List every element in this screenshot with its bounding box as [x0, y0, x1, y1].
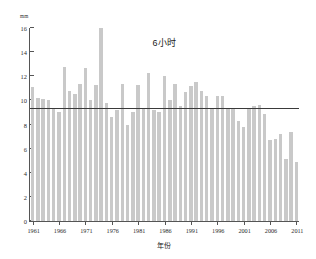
bar: [99, 28, 102, 221]
bar: [221, 96, 224, 221]
bar: [216, 96, 219, 221]
x-axis-tick-label: 1976: [107, 227, 119, 234]
bar: [78, 84, 81, 222]
x-axis-tick: 1971: [85, 221, 86, 225]
bar: [200, 91, 203, 221]
x-axis-tick: 2011: [296, 221, 297, 225]
bar: [205, 96, 208, 221]
x-axis-tick: 2001: [244, 221, 245, 225]
y-axis-tick: 14: [30, 51, 34, 52]
bar: [258, 105, 261, 221]
bar: [73, 94, 76, 221]
bar: [105, 103, 108, 221]
x-axis-tick: 1966: [59, 221, 60, 225]
bar: [152, 110, 155, 221]
bar: [52, 109, 55, 221]
bar: [68, 91, 71, 221]
y-axis-unit-label: mm: [20, 13, 28, 19]
y-axis-tick-label: 14: [21, 49, 27, 56]
x-axis-tick-label: 1996: [212, 227, 224, 234]
mean-reference-line: [30, 108, 299, 109]
x-axis-tick: 2006: [270, 221, 271, 225]
bar: [247, 108, 250, 221]
bar: [263, 114, 266, 221]
bar: [57, 112, 60, 221]
bar: [237, 121, 240, 221]
bar: [47, 100, 50, 221]
bar: [226, 109, 229, 221]
y-axis-tick-label: 4: [24, 169, 27, 176]
plot-area: 6小时 0246810121416 1961196619711976198119…: [29, 28, 299, 222]
x-axis-tick-label: 1986: [159, 227, 171, 234]
bar: [179, 106, 182, 221]
bar: [121, 84, 124, 222]
y-axis-tick: 16: [30, 27, 34, 28]
bar: [142, 109, 145, 221]
x-axis-tick: 1976: [112, 221, 113, 225]
y-axis-tick: 12: [30, 75, 34, 76]
bar: [63, 67, 66, 221]
x-axis-tick-label: 1966: [54, 227, 66, 234]
bar: [41, 99, 44, 221]
bar: [89, 100, 92, 221]
bar: [115, 110, 118, 221]
bar-chart-figure: mm 6小时 0246810121416 1961196619711976198…: [0, 0, 316, 259]
x-axis-tick: 1996: [217, 221, 218, 225]
y-axis-tick-label: 0: [24, 218, 27, 225]
y-axis-tick-label: 2: [24, 193, 27, 200]
bar: [163, 76, 166, 221]
bar: [94, 85, 97, 221]
bar: [268, 140, 271, 221]
y-axis-tick-label: 6: [24, 145, 27, 152]
bar: [126, 125, 129, 222]
bar: [157, 112, 160, 221]
x-axis-tick-label: 1981: [133, 227, 145, 234]
bar: [242, 127, 245, 221]
y-axis-tick-label: 10: [21, 97, 27, 104]
bar: [189, 86, 192, 221]
x-axis-tick-label: 2001: [238, 227, 250, 234]
bar: [136, 85, 139, 221]
bar: [279, 134, 282, 221]
bar: [184, 92, 187, 221]
x-axis-tick: 1991: [191, 221, 192, 225]
x-axis-tick-label: 1961: [27, 227, 39, 234]
x-axis-tick-label: 1991: [186, 227, 198, 234]
bar: [274, 139, 277, 221]
x-axis-tick: 1961: [33, 221, 34, 225]
x-axis-title: 年份: [29, 240, 299, 250]
x-axis-tick-label: 1971: [80, 227, 92, 234]
bar: [289, 132, 292, 221]
bar: [210, 109, 213, 221]
y-axis-tick-label: 8: [24, 121, 27, 128]
bar: [173, 84, 176, 222]
bar: [110, 117, 113, 221]
bar: [194, 82, 197, 221]
y-axis-tick-label: 12: [21, 73, 27, 80]
y-axis-tick-label: 16: [21, 25, 27, 32]
bar: [168, 100, 171, 221]
bar: [84, 68, 87, 221]
bar: [231, 109, 234, 221]
bar: [131, 112, 134, 221]
x-axis-tick: 1981: [138, 221, 139, 225]
x-axis-tick: 1986: [165, 221, 166, 225]
bar: [295, 162, 298, 221]
bar: [36, 98, 39, 221]
chart-title: 6小时: [30, 36, 299, 49]
bar: [252, 106, 255, 221]
x-axis-tick-label: 2006: [265, 227, 277, 234]
x-axis-tick-label: 2011: [291, 227, 303, 234]
bar: [284, 159, 287, 221]
bar: [147, 73, 150, 221]
